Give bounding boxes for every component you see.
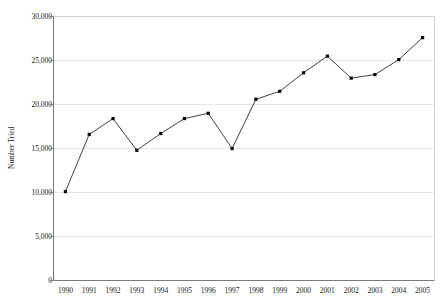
data-point-marker — [302, 71, 305, 74]
data-point-marker — [397, 58, 400, 61]
data-point-marker — [350, 77, 353, 80]
data-point-marker — [278, 90, 281, 93]
data-point-marker — [373, 73, 376, 76]
data-markers — [64, 36, 424, 193]
data-point-marker — [207, 112, 210, 115]
data-point-marker — [254, 98, 257, 101]
axis-tick-marks — [50, 17, 54, 281]
chart-figure: Number Tried 30,00025,00020,00015,00010,… — [0, 0, 443, 304]
data-point-marker — [326, 55, 329, 58]
data-point-marker — [421, 36, 424, 39]
data-point-marker — [88, 133, 91, 136]
data-point-marker — [230, 147, 233, 150]
data-point-marker — [183, 117, 186, 120]
data-point-marker — [111, 117, 114, 120]
data-point-marker — [135, 149, 138, 152]
data-point-marker — [64, 190, 67, 193]
gridlines — [54, 17, 435, 237]
plot-area — [0, 0, 443, 304]
data-point-marker — [159, 132, 162, 135]
